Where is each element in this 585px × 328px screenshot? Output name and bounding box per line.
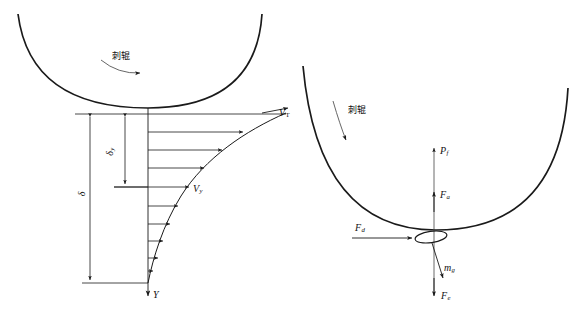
label-force-fd: Fd bbox=[355, 223, 365, 234]
delta-y-subscript: y bbox=[109, 148, 116, 151]
vy-subscript: y bbox=[199, 187, 202, 194]
fe-subscript: e bbox=[447, 294, 450, 301]
label-velocity-local: Vy bbox=[193, 184, 202, 195]
label-velocity-surface: VT bbox=[279, 108, 290, 119]
vt-subscript: T bbox=[285, 111, 289, 118]
roller-label-left: 刺辊 bbox=[112, 49, 131, 62]
label-force-pf: Pf bbox=[440, 146, 448, 157]
label-delta-y: δy bbox=[105, 148, 116, 156]
velocity-arrow-group bbox=[114, 132, 243, 271]
mg-subscript: g bbox=[451, 266, 455, 273]
fa-subscript: a bbox=[446, 193, 450, 200]
left-diagram-vectors bbox=[0, 0, 585, 328]
label-force-fa: Fa bbox=[440, 190, 450, 201]
figure-canvas: 刺辊 VT Vy δy δ Y 刺辊 Pf Fa Fd mg Fe bbox=[0, 0, 585, 328]
velocity-profile-curve bbox=[148, 113, 286, 283]
label-force-fe: Fe bbox=[441, 291, 450, 302]
delta-y-symbol: δ bbox=[104, 151, 115, 156]
fiber-body bbox=[414, 229, 447, 245]
pf-subscript: f bbox=[446, 149, 448, 156]
label-y-axis: Y bbox=[153, 290, 159, 300]
licker-in-roller-surface-left bbox=[18, 14, 262, 108]
rotation-arrow-right bbox=[333, 101, 346, 140]
label-delta: δ bbox=[77, 192, 87, 197]
delta-symbol: δ bbox=[76, 192, 87, 197]
fd-subscript: d bbox=[361, 226, 365, 233]
licker-in-roller-surface-right bbox=[303, 66, 568, 230]
label-force-mg: mg bbox=[444, 263, 455, 274]
roller-label-right: 刺辊 bbox=[348, 103, 367, 116]
